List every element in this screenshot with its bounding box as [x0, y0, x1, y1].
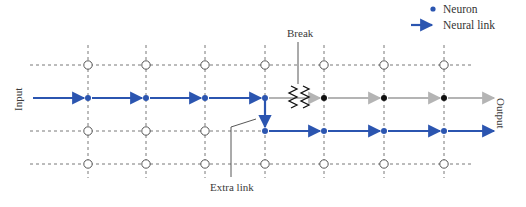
neural-network-diagram: Break Extra link Input Output Neuron Neu… — [0, 0, 526, 207]
grid-horizontal-lines — [30, 65, 474, 164]
input-label: Input — [12, 88, 24, 111]
legend-neuron-icon — [430, 6, 435, 11]
legend-neuron-label: Neuron — [443, 3, 478, 15]
extra-link-label: Extra link — [210, 181, 254, 193]
extra-link-leader-line — [231, 119, 256, 177]
legend: Neuron Neural link — [411, 3, 495, 31]
output-label: Output — [495, 98, 507, 129]
break-label: Break — [287, 27, 314, 39]
legend-link-label: Neural link — [443, 19, 495, 31]
